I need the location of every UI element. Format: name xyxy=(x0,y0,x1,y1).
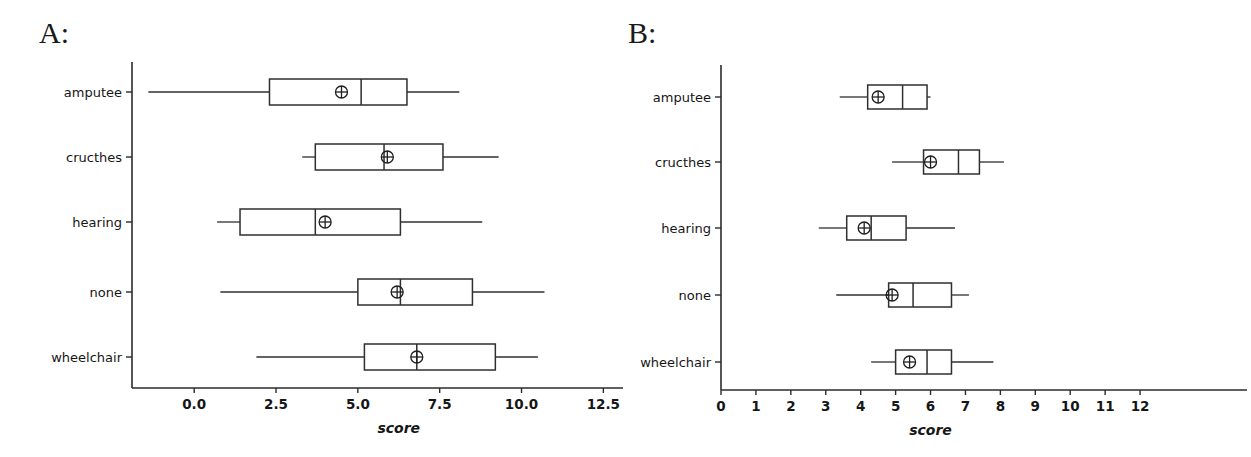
x-tick-label: 12 xyxy=(1131,398,1150,414)
x-axis-title: score xyxy=(377,420,420,436)
x-tick-label: 1 xyxy=(751,398,760,414)
x-tick-label: 11 xyxy=(1096,398,1115,414)
x-tick-label: 12.5 xyxy=(587,396,620,412)
x-tick-label: 6 xyxy=(926,398,935,414)
box-iqr xyxy=(847,216,906,240)
boxplot-amputee xyxy=(840,85,931,109)
x-tick-label: 0.0 xyxy=(182,396,206,412)
boxplot-none xyxy=(836,283,969,307)
boxplot-hearing xyxy=(819,216,955,240)
panel-b-plot: 0123456789101112scoreamputeecructheshear… xyxy=(625,0,1251,457)
x-tick-label: 7 xyxy=(961,398,970,414)
category-label-amputee: amputee xyxy=(64,85,122,100)
category-label-none: none xyxy=(679,288,711,303)
x-tick-label: 3 xyxy=(821,398,830,414)
boxplot-cructhes xyxy=(302,144,498,170)
category-label-wheelchair: wheelchair xyxy=(51,350,122,365)
x-tick-label: 9 xyxy=(1031,398,1040,414)
x-tick-label: 2 xyxy=(786,398,795,414)
box-iqr xyxy=(364,344,495,370)
category-label-hearing: hearing xyxy=(661,221,711,236)
x-tick-label: 5 xyxy=(891,398,900,414)
boxplot-hearing xyxy=(217,209,482,235)
boxplot-cructhes xyxy=(892,150,1004,174)
x-tick-label: 4 xyxy=(856,398,865,414)
box-iqr xyxy=(315,144,443,170)
boxplot-wheelchair xyxy=(871,350,993,374)
box-iqr xyxy=(358,279,473,305)
x-axis-title: score xyxy=(909,422,952,438)
panel-a-plot: 0.02.55.07.510.012.5scoreamputeecructhes… xyxy=(0,0,625,457)
x-tick-label: 2.5 xyxy=(264,396,288,412)
boxplot-none xyxy=(220,279,544,305)
x-tick-label: 0 xyxy=(716,398,725,414)
boxplot-figure: A: B: 0.02.55.07.510.012.5scoreamputeecr… xyxy=(0,0,1251,457)
category-label-hearing: hearing xyxy=(72,215,122,230)
x-tick-label: 10 xyxy=(1061,398,1080,414)
category-label-none: none xyxy=(90,285,122,300)
x-tick-label: 5.0 xyxy=(346,396,370,412)
x-tick-label: 7.5 xyxy=(428,396,452,412)
boxplot-wheelchair xyxy=(256,344,538,370)
category-label-cructhes: cructhes xyxy=(66,150,122,165)
category-label-wheelchair: wheelchair xyxy=(640,355,711,370)
category-label-cructhes: cructhes xyxy=(655,155,711,170)
x-tick-label: 10.0 xyxy=(505,396,538,412)
category-label-amputee: amputee xyxy=(653,90,711,105)
boxplot-amputee xyxy=(148,79,459,105)
x-tick-label: 8 xyxy=(996,398,1005,414)
